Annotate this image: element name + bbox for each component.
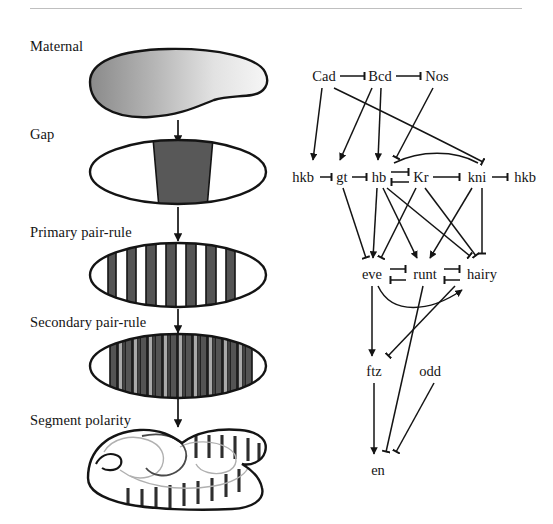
- gene-label-hb[interactable]: hb: [371, 170, 388, 185]
- primary-pair-rule-embryo: [90, 241, 266, 311]
- edge-bcd-activate-hb: [378, 88, 381, 160]
- edge-odd-repress-en: [396, 383, 434, 452]
- gene-label-ftz[interactable]: ftz: [365, 364, 382, 379]
- edge-hb-activate-eve: [373, 188, 377, 258]
- gene-label-gt[interactable]: gt: [335, 170, 348, 185]
- edge-hairy-repress-ftz: [388, 286, 455, 356]
- gene-label-runt[interactable]: runt: [412, 267, 437, 282]
- edge-kni-activate-runt: [430, 188, 472, 258]
- edge-kr-repress-eve: [381, 188, 416, 258]
- gene-label-nos[interactable]: Nos: [424, 69, 449, 84]
- gene-label-eve[interactable]: eve: [361, 267, 383, 282]
- gene-label-hkb-right[interactable]: hkb: [513, 170, 537, 185]
- gene-label-bcd[interactable]: Bcd: [367, 69, 392, 84]
- gene-label-cad[interactable]: Cad: [311, 69, 336, 84]
- edge-gap-arc: [394, 153, 478, 163]
- gene-label-kr[interactable]: Kr: [412, 170, 429, 185]
- maternal-embryo: [90, 49, 267, 117]
- secondary-pair-rule-embryo: [90, 332, 266, 402]
- edge-gt-repress-eve: [343, 188, 366, 258]
- figure-root: Maternal Gap Primary pair-rule Secondary…: [0, 0, 553, 524]
- gene-label-kni[interactable]: kni: [467, 170, 488, 185]
- gene-label-hairy[interactable]: hairy: [466, 267, 498, 282]
- gene-label-en[interactable]: en: [370, 463, 386, 478]
- gene-label-odd[interactable]: odd: [418, 364, 442, 379]
- segment-polarity-embryo: [80, 425, 280, 520]
- edge-nos-repress-hb: [396, 88, 433, 158]
- edge-cad-activate-hkbL: [313, 88, 322, 160]
- edge-kr-repress-hairy: [425, 188, 476, 256]
- gap-embryo: [90, 138, 266, 208]
- figure-canvas: [0, 0, 553, 524]
- gene-label-hkb-left[interactable]: hkb: [291, 170, 315, 185]
